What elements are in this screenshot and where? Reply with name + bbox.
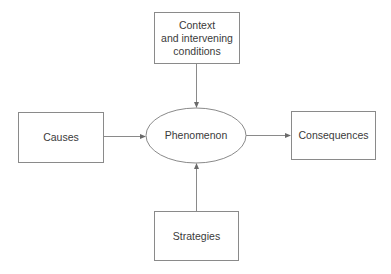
phenomenon-label: Phenomenon	[165, 129, 227, 142]
causes-label: Causes	[43, 131, 79, 144]
phenomenon-node: Phenomenon	[146, 108, 246, 163]
context-label-line3: conditions	[173, 45, 220, 58]
strategies-label: Strategies	[173, 230, 220, 243]
strategies-node: Strategies	[154, 211, 239, 261]
context-label-line1: Context	[179, 19, 215, 32]
context-node: Context and intervening conditions	[154, 12, 240, 64]
consequences-node: Consequences	[291, 111, 376, 160]
context-label-line2: and intervening	[161, 32, 233, 45]
consequences-label: Consequences	[298, 129, 368, 142]
causes-node: Causes	[18, 112, 104, 163]
